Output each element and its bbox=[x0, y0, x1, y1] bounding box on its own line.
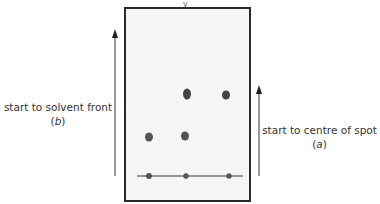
spot-distance-label: start to centre of spot (a) bbox=[262, 123, 377, 151]
chromatogram-diagram: y start to solvent front (b) start to ce… bbox=[0, 0, 380, 204]
solvent-front-label: start to solvent front (b) bbox=[2, 100, 114, 128]
solvent-front-label-var: (b) bbox=[2, 114, 114, 128]
spot-distance-label-var: (a) bbox=[262, 137, 377, 151]
developed-spot-1 bbox=[145, 133, 153, 142]
baseline-spot-2 bbox=[183, 173, 188, 178]
baseline-spot-1 bbox=[146, 173, 152, 179]
developed-spot-2 bbox=[181, 132, 189, 141]
solvent-front-label-text: start to solvent front bbox=[2, 100, 114, 114]
spot-distance-arrowhead-icon bbox=[256, 85, 262, 94]
developed-spot-4 bbox=[222, 91, 230, 100]
spot-distance-label-text: start to centre of spot bbox=[262, 123, 377, 137]
baseline-spot-3 bbox=[226, 173, 231, 178]
developed-spot-3 bbox=[183, 89, 191, 100]
solvent-front-arrowhead-icon bbox=[112, 29, 118, 38]
